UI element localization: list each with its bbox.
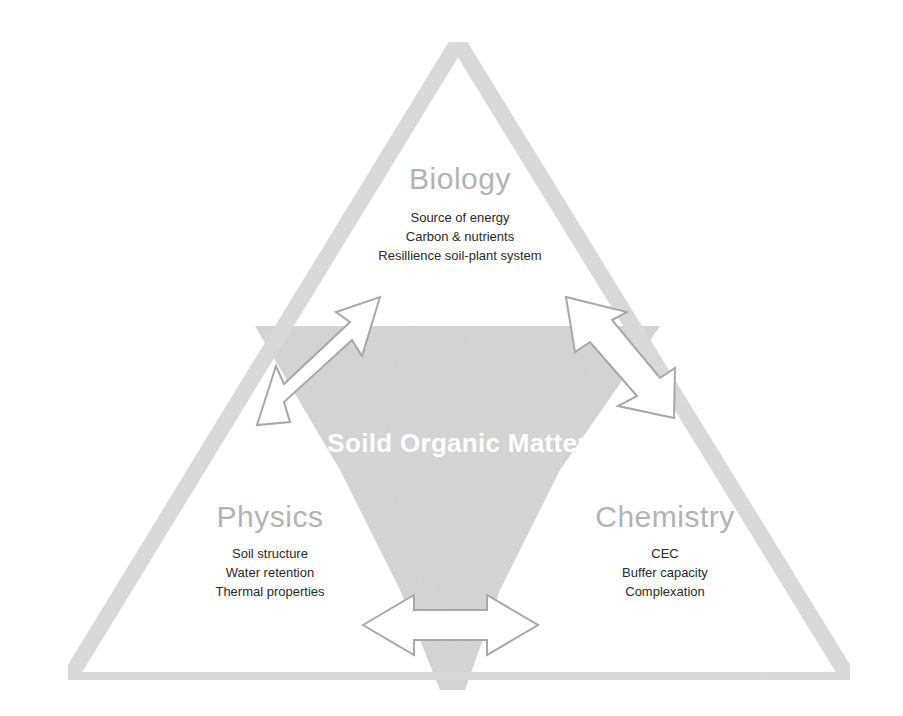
biology-heading: Biology: [330, 162, 590, 196]
physics-heading: Physics: [170, 500, 370, 534]
chemistry-items: CEC Buffer capacity Complexation: [565, 544, 765, 601]
biology-item: Carbon & nutrients: [330, 227, 590, 246]
biology-item: Source of energy: [330, 208, 590, 227]
physics-item: Thermal properties: [170, 582, 370, 601]
chemistry-item: Complexation: [565, 582, 765, 601]
chemistry-item: Buffer capacity: [565, 563, 765, 582]
biology-item: Resillience soil-plant system: [330, 246, 590, 265]
chemistry-heading: Chemistry: [565, 500, 765, 534]
center-title: Soild Organic Matter: [255, 428, 660, 459]
chemistry-item: CEC: [565, 544, 765, 563]
physics-item: Soil structure: [170, 544, 370, 563]
biology-items: Source of energy Carbon & nutrients Resi…: [330, 208, 590, 265]
soil-organic-matter-diagram: Soild Organic Matter Biology Source of e…: [0, 0, 903, 716]
node-chemistry: Chemistry CEC Buffer capacity Complexati…: [565, 500, 765, 601]
node-biology: Biology Source of energy Carbon & nutrie…: [330, 162, 590, 265]
node-physics: Physics Soil structure Water retention T…: [170, 500, 370, 601]
physics-items: Soil structure Water retention Thermal p…: [170, 544, 370, 601]
diagram-canvas: [0, 0, 903, 716]
physics-item: Water retention: [170, 563, 370, 582]
